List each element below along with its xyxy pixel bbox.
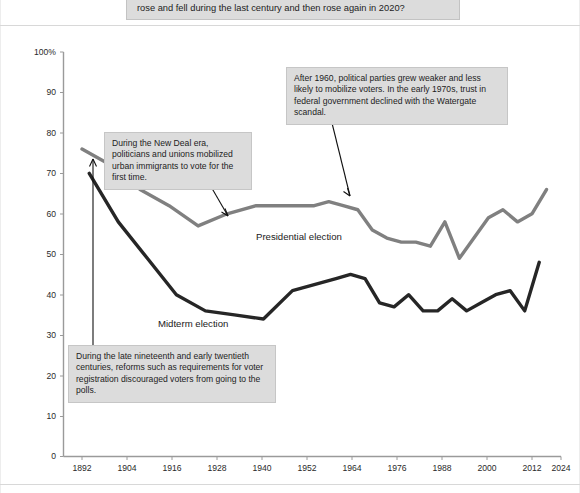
- x-tick-label: 1916: [149, 463, 195, 473]
- y-tick-label: 80: [22, 128, 56, 138]
- annotation-parties-weaker: After 1960, political parties grew weake…: [286, 67, 508, 125]
- x-tick-label: 2024: [538, 463, 580, 473]
- y-tick-label: 60: [22, 209, 56, 219]
- y-tick-label: 70: [22, 168, 56, 178]
- chart-plot-area: 100% 90 80 70 60 50 40 30 20 10 0 1892 1…: [0, 26, 580, 493]
- question-callout: rose and fell during the last century an…: [126, 0, 460, 20]
- y-tick-label: 90: [22, 87, 56, 97]
- question-text: rose and fell during the last century an…: [137, 2, 455, 14]
- x-tick-label: 1988: [419, 463, 465, 473]
- x-tick-label: 1892: [59, 463, 105, 473]
- midterm-election-line: [89, 173, 539, 319]
- footer-divider: [0, 484, 580, 485]
- x-tick-label: 1952: [284, 463, 330, 473]
- x-tick-label: 1976: [374, 463, 420, 473]
- x-tick-label: 1940: [239, 463, 285, 473]
- x-tick-label: 1904: [104, 463, 150, 473]
- y-tick-label: 0: [22, 451, 56, 461]
- x-tick-label: 2000: [464, 463, 510, 473]
- y-tick-label: 40: [22, 290, 56, 300]
- y-tick-label: 10: [22, 411, 56, 421]
- annotation-new-deal: During the New Deal era, politicians and…: [104, 132, 252, 190]
- x-tick-label: 1928: [194, 463, 240, 473]
- y-tick-label: 20: [22, 371, 56, 381]
- y-tick-label: 30: [22, 330, 56, 340]
- series-label-presidential: Presidential election: [256, 231, 342, 242]
- series-label-midterm: Midterm election: [158, 318, 228, 329]
- x-tick-label: 1964: [329, 463, 375, 473]
- header-band: rose and fell during the last century an…: [0, 0, 580, 26]
- annotation-registration-reforms: During the late nineteenth and early twe…: [68, 345, 276, 403]
- y-tick-label: 100%: [22, 47, 56, 57]
- y-tick-label: 50: [22, 249, 56, 259]
